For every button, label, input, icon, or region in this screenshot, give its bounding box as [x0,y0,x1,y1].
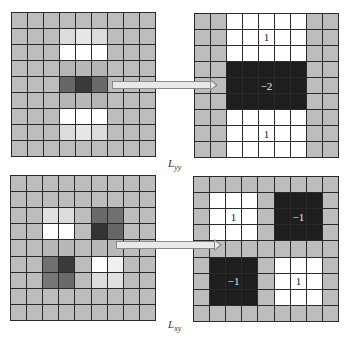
grid-cell [323,290,338,305]
grid-cell [75,257,90,272]
grid-cell [92,61,107,76]
grid-cell [210,193,225,208]
grid-cell [140,305,155,320]
grid-cell [108,61,123,76]
grid-cell [242,290,257,305]
grid-cell [291,306,306,321]
caption-lyy: Lyy [168,157,181,172]
grid-cell [92,305,107,320]
grid-cell [323,78,338,93]
grid-cell [92,77,107,92]
grid-cell [275,62,290,77]
grid-cell [227,142,242,157]
grid-cell [43,273,58,288]
grid-cell [140,109,155,124]
grid-cell [108,192,123,207]
grid-cell [27,192,42,207]
grid-cell [60,141,75,156]
caption-subscript: yy [174,163,181,172]
grid-cell [75,273,90,288]
grid-cell [124,257,139,272]
grid-cell [43,289,58,304]
weight-label: −1 [293,211,305,223]
grid-cell [227,62,242,77]
grid-cell [76,109,91,124]
grid-cell [27,240,42,255]
grid-cell [92,240,107,255]
weight-label: −2 [261,80,273,92]
grid-cell [211,126,226,141]
grid-cell [43,176,58,191]
weight-label: 1 [264,128,270,140]
grid-cell [92,176,107,191]
grid-cell [108,289,123,304]
grid-cell [210,306,225,321]
grid-cell [275,274,290,289]
grid-cell [243,142,258,157]
grid-cell [28,141,43,156]
grid-cell [307,177,322,192]
grid-cell [275,30,290,45]
grid-cell [108,13,123,28]
grid-cell [11,224,26,239]
grid-cell [323,110,338,125]
grid-cell [226,177,241,192]
grid-cell [307,209,322,224]
grid-cell [323,14,338,29]
grid-cell [124,192,139,207]
grid-cell [291,241,306,256]
grid-cell [11,273,26,288]
grid-cell [108,125,123,140]
grid-cell [258,241,273,256]
grid-cell [291,30,306,45]
grid-cell [307,110,322,125]
grid-cell [291,62,306,77]
grid-cell [140,29,155,44]
grid-cell [140,224,155,239]
grid-cell [323,209,338,224]
grid-cell [59,289,74,304]
grid-cell [291,78,306,93]
grid-cell [195,94,210,109]
grid-cell [124,45,139,60]
grid-cell [291,258,306,273]
grid-cell [60,45,75,60]
grid-cell [258,193,273,208]
grid-cell [275,94,290,109]
grid-cell [124,13,139,28]
grid-cell [92,257,107,272]
grid-cell [108,208,123,223]
caption-subscript: xy [174,324,181,333]
weight-label: −1 [228,275,240,287]
grid-cell [259,14,274,29]
grid-cell [194,177,209,192]
grid-cell [60,29,75,44]
grid-cell [140,273,155,288]
grid-cell [28,45,43,60]
grid-cell [323,258,338,273]
grid-cell [323,177,338,192]
grid-cell [307,306,322,321]
grid-cell [323,241,338,256]
grid-cell [211,46,226,61]
grid-cell [323,46,338,61]
grid-cell [243,62,258,77]
grid-cell [75,176,90,191]
grid-cell [195,30,210,45]
grid-cell [291,46,306,61]
grid-cell [291,177,306,192]
grid-cell [124,141,139,156]
grid-cell [140,93,155,108]
grid-cell [323,126,338,141]
weight-label: 1 [231,211,237,223]
grid-cell [108,109,123,124]
grid-cell [227,46,242,61]
grid-cell [28,125,43,140]
grid-cell [275,14,290,29]
grid-cell [44,45,59,60]
grid-cell [195,142,210,157]
grid-cell [226,306,241,321]
grid-cell [28,13,43,28]
grid-cell [258,209,273,224]
grid-cell [242,306,257,321]
